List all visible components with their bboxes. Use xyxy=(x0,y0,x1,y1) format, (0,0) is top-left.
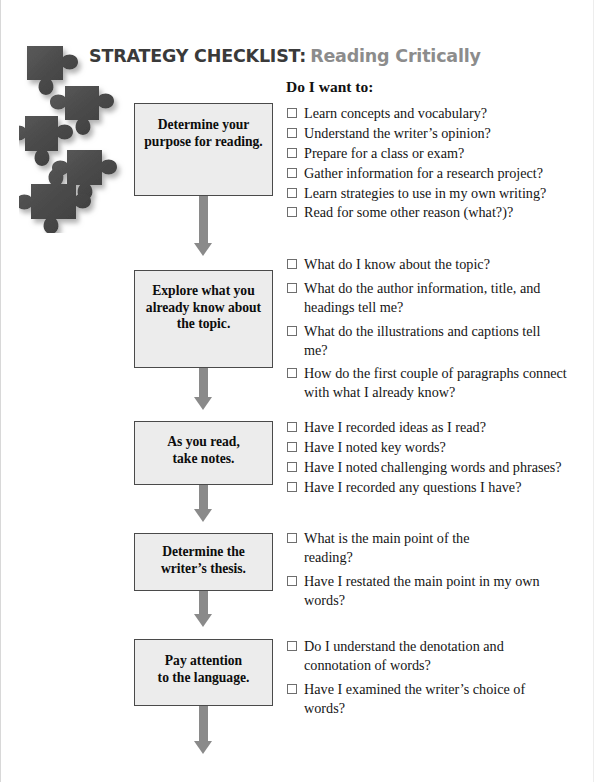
checklist-item[interactable]: Learn strategies to use in my own writin… xyxy=(287,184,587,203)
checklist-item-label: Have I noted challenging words and phras… xyxy=(304,458,562,477)
checklist-item-label: What do the author information, title, a… xyxy=(304,279,554,317)
checklist-item[interactable]: Understand the writer’s opinion? xyxy=(287,124,587,143)
checklist-item[interactable]: Learn concepts and vocabulary? xyxy=(287,104,587,123)
page-title-sub: Reading Critically xyxy=(310,46,481,66)
checklist-item-label: Read for some other reason (what?)? xyxy=(304,203,513,222)
flow-box-step-2: Explore what you already know about the … xyxy=(134,270,273,368)
checklist-item-label: Learn strategies to use in my own writin… xyxy=(304,184,546,203)
checklist-group-3: Have I recorded ideas as I read? Have I … xyxy=(287,418,587,498)
checkbox-icon[interactable] xyxy=(287,128,297,138)
checklist-item[interactable]: Have I noted challenging words and phras… xyxy=(287,458,587,477)
checklist-item[interactable]: What do I know about the topic? xyxy=(287,255,587,274)
flow-box-step-4: Determine the writer’s thesis. xyxy=(134,533,273,591)
checklist-item[interactable]: How do the first couple of paragraphs co… xyxy=(287,364,587,402)
checklist-item-label: What is the main point of the reading? xyxy=(304,529,472,567)
checkbox-icon[interactable] xyxy=(287,188,297,198)
checklist-item[interactable]: What is the main point of the reading? xyxy=(287,529,587,567)
flow-box-step-3: As you read, take notes. xyxy=(134,421,273,485)
checklist-group-1: Learn concepts and vocabulary? Understan… xyxy=(287,104,587,223)
checklist-item-label: Have I recorded ideas as I read? xyxy=(304,418,486,437)
checkbox-icon[interactable] xyxy=(287,684,297,694)
checklist-item-label: Learn concepts and vocabulary? xyxy=(304,104,487,123)
checklist-item[interactable]: Have I recorded ideas as I read? xyxy=(287,418,587,437)
checkbox-icon[interactable] xyxy=(287,462,297,472)
checklist-item[interactable]: Do I understand the denotation and conno… xyxy=(287,637,587,675)
checklist-item[interactable]: Read for some other reason (what?)? xyxy=(287,203,587,222)
checklist-item[interactable]: What do the author information, title, a… xyxy=(287,279,587,317)
flow-box-label: Pay attention to the language. xyxy=(152,653,256,686)
checklist-item-label: Do I understand the denotation and conno… xyxy=(304,637,524,675)
checkbox-icon[interactable] xyxy=(287,422,297,432)
checklist-item-label: How do the first couple of paragraphs co… xyxy=(304,364,587,402)
flow-arrow-head-3 xyxy=(194,509,212,522)
flow-box-step-1: Determine your purpose for reading. xyxy=(134,103,273,196)
checklist-item[interactable]: Gather information for a research projec… xyxy=(287,164,587,183)
checkbox-icon[interactable] xyxy=(287,482,297,492)
checklist-item[interactable]: Have I restated the main point in my own… xyxy=(287,572,587,610)
checklist-item-label: Gather information for a research projec… xyxy=(304,164,543,183)
checklist-item-label: What do the illustrations and captions t… xyxy=(304,322,542,360)
checklist-item-label: Have I recorded any questions I have? xyxy=(304,478,521,497)
checklist-item[interactable]: Have I examined the writer’s choice of w… xyxy=(287,680,587,718)
checkbox-icon[interactable] xyxy=(287,368,297,378)
checklist-group-2: What do I know about the topic? What do … xyxy=(287,255,587,407)
checkbox-icon[interactable] xyxy=(287,148,297,158)
checkbox-icon[interactable] xyxy=(287,442,297,452)
flow-box-label: Determine the writer’s thesis. xyxy=(155,544,252,577)
flow-arrow-head-4 xyxy=(194,614,212,627)
checklist-item[interactable]: Have I noted key words? xyxy=(287,438,587,457)
flow-box-step-5: Pay attention to the language. xyxy=(134,639,273,706)
checkbox-icon[interactable] xyxy=(287,641,297,651)
prompt-label: Do I want to: xyxy=(286,78,373,96)
flow-box-label: Explore what you already know about the … xyxy=(140,283,267,333)
checklist-item[interactable]: Have I recorded any questions I have? xyxy=(287,478,587,497)
checkbox-icon[interactable] xyxy=(287,168,297,178)
checkbox-icon[interactable] xyxy=(287,259,297,269)
checkbox-icon[interactable] xyxy=(287,283,297,293)
page-title: STRATEGY CHECKLIST:Reading Critically xyxy=(89,46,559,72)
checklist-item-label: Have I noted key words? xyxy=(304,438,446,457)
checklist-item-label: What do I know about the topic? xyxy=(304,255,490,274)
checklist-item[interactable]: What do the illustrations and captions t… xyxy=(287,322,587,360)
flow-arrow-head-5 xyxy=(194,741,212,754)
checkbox-icon[interactable] xyxy=(287,576,297,586)
flow-arrow-head-2 xyxy=(194,397,212,410)
checkbox-icon[interactable] xyxy=(287,533,297,543)
flow-box-label: As you read, take notes. xyxy=(161,434,246,467)
checklist-page: STRATEGY CHECKLIST:Reading Critically Do… xyxy=(0,0,594,782)
checklist-item[interactable]: Prepare for a class or exam? xyxy=(287,144,587,163)
checklist-item-label: Have I examined the writer’s choice of w… xyxy=(304,680,532,718)
checklist-item-label: Prepare for a class or exam? xyxy=(304,144,464,163)
flow-box-label: Determine your purpose for reading. xyxy=(138,117,268,150)
checkbox-icon[interactable] xyxy=(287,108,297,118)
checkbox-icon[interactable] xyxy=(287,207,297,217)
checklist-item-label: Understand the writer’s opinion? xyxy=(304,124,491,143)
page-title-main: STRATEGY CHECKLIST: xyxy=(89,46,306,66)
checklist-group-5: Do I understand the denotation and conno… xyxy=(287,637,587,723)
checkbox-icon[interactable] xyxy=(287,326,297,336)
checklist-group-4: What is the main point of the reading? H… xyxy=(287,529,587,615)
flow-arrow-head-1 xyxy=(194,243,212,256)
checklist-item-label: Have I restated the main point in my own… xyxy=(304,572,552,610)
